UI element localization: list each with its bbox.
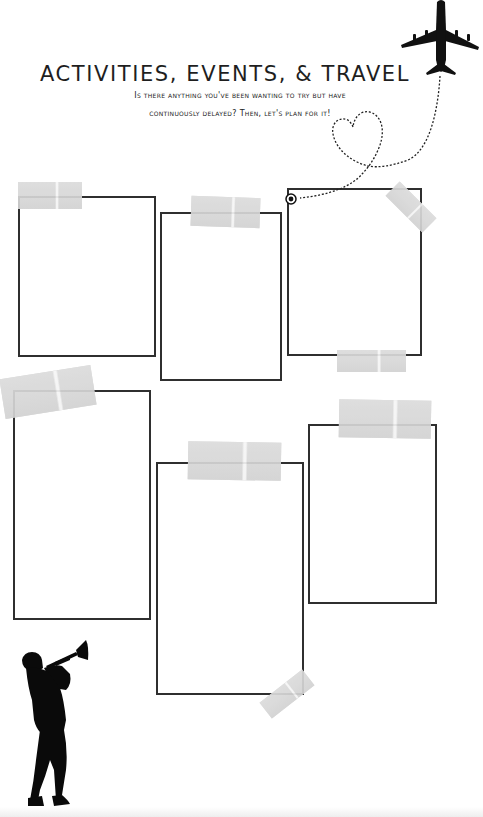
airplane-icon — [401, 0, 479, 75]
pin-circle-icon — [286, 194, 296, 204]
bottom-shadow-band — [0, 807, 483, 817]
dotted-heart-path — [300, 76, 440, 198]
travel-decoration — [0, 0, 483, 817]
trumpet-player-silhouette — [22, 640, 88, 806]
